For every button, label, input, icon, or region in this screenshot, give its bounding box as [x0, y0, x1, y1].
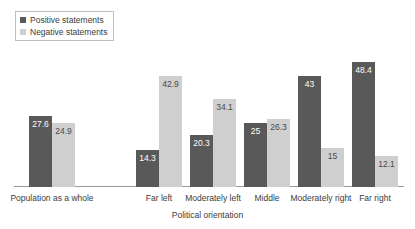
bar-value-label: 12.1: [375, 159, 398, 169]
bar-negative: 12.1: [375, 156, 398, 187]
bar-value-label: 24.9: [52, 126, 75, 136]
bar-positive: 27.6: [29, 116, 52, 187]
bar-chart: Positive statements Negative statements …: [0, 0, 415, 229]
plot-area: 27.6 24.9 14.3 42.9 20.3 34.1 25: [0, 0, 415, 187]
bar-negative: 15: [321, 148, 344, 187]
bar-group: 27.6 24.9: [29, 0, 75, 187]
bar-group: 14.3 42.9: [136, 0, 182, 187]
bar-value-label: 25: [244, 126, 267, 136]
x-tick-label-moderately-right: Moderately right: [291, 193, 352, 204]
bar-positive: 14.3: [136, 150, 159, 187]
bar-negative: 42.9: [159, 76, 182, 187]
bar-negative: 34.1: [213, 99, 236, 187]
bar-value-label: 34.1: [213, 102, 236, 112]
bar-value-label: 42.9: [159, 79, 182, 89]
bar-group: 20.3 34.1: [190, 0, 236, 187]
x-tick-label-population: Population as a whole: [10, 193, 93, 204]
x-tick-label-far-left: Far left: [146, 193, 172, 204]
x-tick-label-middle: Middle: [254, 193, 279, 204]
bar-value-label: 15: [321, 151, 344, 161]
bar-value-label: 26.3: [267, 122, 290, 132]
bar-negative: 26.3: [267, 119, 290, 187]
bar-positive: 43: [298, 76, 321, 187]
bar-value-label: 48.4: [352, 65, 375, 75]
bar-group: 25 26.3: [244, 0, 290, 187]
bar-positive: 20.3: [190, 135, 213, 187]
bar-negative: 24.9: [52, 123, 75, 187]
bar-positive: 25: [244, 123, 267, 188]
bar-positive: 48.4: [352, 62, 375, 187]
bar-value-label: 43: [298, 79, 321, 89]
bar-group: 48.4 12.1: [352, 0, 398, 187]
bar-value-label: 14.3: [136, 153, 159, 163]
x-tick-label-moderately-left: Moderately left: [185, 193, 241, 204]
bar-group: 43 15: [298, 0, 344, 187]
x-tick-label-far-right: Far right: [359, 193, 391, 204]
bar-value-label: 20.3: [190, 138, 213, 148]
x-axis-title: Political orientation: [0, 210, 415, 220]
bar-value-label: 27.6: [29, 119, 52, 129]
